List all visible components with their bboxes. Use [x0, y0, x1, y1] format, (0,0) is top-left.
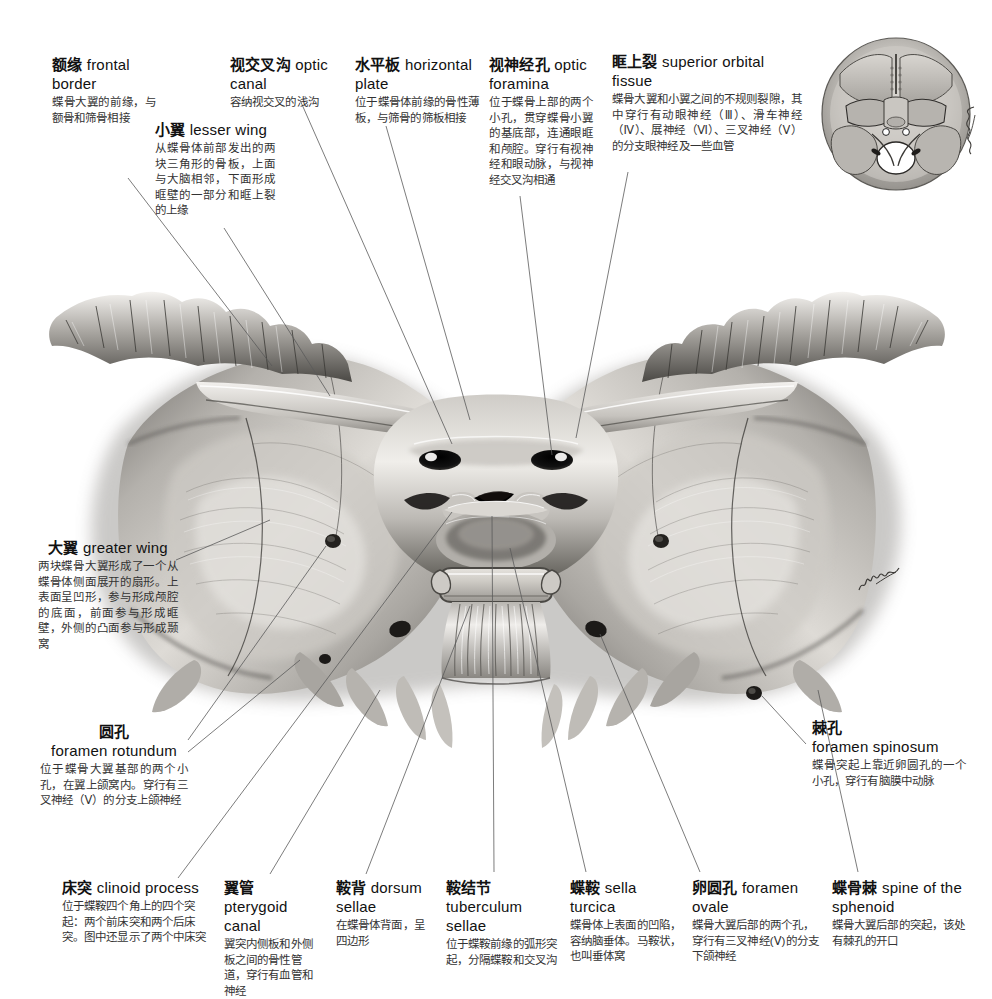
- label-optic-foramina-desc: 位于蝶骨上部的两个小孔，贯穿蝶骨小翼的基底部，连通眼眶和颅腔。穿行有视神经和眼动…: [489, 95, 593, 188]
- clivus-striated-surface: [441, 602, 550, 684]
- foramen-spinosum-left: [319, 654, 331, 664]
- label-foramen-spinosum-title: 棘孔 foramen spinosum: [812, 718, 966, 756]
- label-sella-turcica-desc: 蝶骨体上表面的凹陷，容纳脑垂体。马鞍状，也叫垂体窝: [570, 918, 682, 965]
- label-foramen-spinosum-desc: 蝶骨突起上靠近卵圆孔的一个小孔，穿行有脑膜中动脉: [812, 758, 966, 789]
- label-greater-wing-title: 大翼 greater wing: [38, 538, 178, 557]
- label-dorsum-sellae-title: 鞍背 dorsum sellae: [336, 878, 428, 916]
- label-foramen-rotundum: 圆孔 foramen rotundum 位于蝶骨大翼基部的两个小孔，在翼上颌窝内…: [40, 722, 188, 809]
- label-greater-wing-desc: 两块蝶骨大翼形成了一个从蝶骨体侧面展开的扇形。上表面呈凹形，参与形成颅腔的底面，…: [38, 559, 178, 652]
- optic-foramen-right: [531, 450, 573, 470]
- superior-orbital-fissure-right: [532, 428, 596, 482]
- label-pterygoid-canal-desc: 翼突内侧板和外侧板之间的骨性管道，穿行有血管和神经: [224, 937, 318, 999]
- label-pterygoid-canal: 翼管 pterygoid canal 翼突内侧板和外侧板之间的骨性管道，穿行有血…: [224, 878, 318, 999]
- label-clinoid-process: 床突 clinoid process 位于蝶鞍四个角上的四个突起：两个前床突和两…: [62, 878, 214, 946]
- greater-wing-right: [520, 355, 876, 694]
- label-sella-turcica-title: 蝶鞍 sella turcica: [570, 878, 682, 916]
- leader-optic-canal: [300, 100, 452, 444]
- leader-tuberculum-sellae: [492, 516, 494, 872]
- label-lesser-wing: 小翼 lesser wing 从蝶骨体前部发出的两块三角形的骨板，上面与大脑相邻…: [155, 120, 275, 219]
- tuberculum-sellae: [444, 501, 548, 516]
- leader-horizontal-plate: [386, 126, 470, 420]
- sphenoid-body: [374, 395, 618, 587]
- foramen-rotundum-right: [653, 534, 669, 548]
- label-optic-canal-title: 视交叉沟 optic canal: [230, 55, 346, 93]
- leader-clinoid-process: [178, 512, 452, 878]
- label-foramen-ovale-title: 卵圆孔 foramen ovale: [692, 878, 824, 916]
- artist-signature-main: [856, 560, 902, 606]
- foramen-ovale-left: [387, 618, 413, 640]
- optic-foramen-left: [419, 450, 461, 470]
- pterygoid-process-right: [542, 652, 700, 748]
- label-superior-orbital-fissure-title: 眶上裂 superior orbital fissue: [612, 52, 802, 90]
- label-horizontal-plate: 水平板 horizontal plate 位于蝶骨体前缘的骨性薄板，与筛骨的筛板…: [355, 55, 479, 126]
- label-foramen-ovale: 卵圆孔 foramen ovale 蝶骨大翼后部的两个孔，穿行有三叉神经(Ⅴ)的…: [692, 878, 824, 965]
- label-dorsum-sellae-desc: 在蝶骨体背面，呈四边形: [336, 918, 428, 949]
- lesser-wing-left: [196, 382, 472, 439]
- label-spine-of-the-sphenoid-title: 蝶骨棘 spine of the sphenoid: [832, 878, 968, 916]
- foramen-ovale-right: [583, 618, 609, 640]
- leader-optic-foramina: [520, 196, 552, 455]
- label-tuberculum-sellae: 鞍结节 tuberculum sellae 位于蝶鞍前缘的弧形突起，分隔蝶鞍和交…: [446, 878, 564, 968]
- label-clinoid-process-title: 床突 clinoid process: [62, 878, 214, 897]
- label-clinoid-process-desc: 位于蝶鞍四个角上的四个突起：两个前床突和两个后床突。图中还显示了两个中床突: [62, 899, 214, 946]
- leader-foramen-ovale: [600, 634, 700, 872]
- leader-foramen-rotundum-b: [188, 660, 300, 752]
- spine-of-the-sphenoid-left: [152, 660, 201, 712]
- leader-lesser-wing: [224, 228, 330, 396]
- foramen-rotundum-left: [325, 534, 341, 548]
- label-horizontal-plate-desc: 位于蝶骨体前缘的骨性薄板，与筛骨的筛板相接: [355, 95, 479, 126]
- label-superior-orbital-fissure-desc: 蝶骨大翼和小翼之间的不规则裂隙，其中穿行有动眼神经（Ⅲ）、滑车神经（Ⅳ）、展神经…: [612, 92, 802, 154]
- leader-foramen-spinosum: [762, 696, 806, 744]
- dorsum-sellae: [431, 568, 560, 602]
- bone-shadow-mass: [91, 354, 901, 701]
- label-frontal-border-title: 额缘 frontal border: [52, 55, 156, 93]
- frontal-border-rough-edge-right: [642, 292, 945, 382]
- label-sella-turcica: 蝶鞍 sella turcica 蝶骨体上表面的凹陷，容纳脑垂体。马鞍状，也叫垂…: [570, 878, 682, 965]
- label-spine-of-the-sphenoid-desc: 蝶骨大翼后部的突起，该处有棘孔的开口: [832, 918, 968, 949]
- superior-orbital-fissure-left: [398, 428, 462, 482]
- label-optic-foramina: 视神经孔 optic foramina 位于蝶骨上部的两个小孔，贯穿蝶骨小翼的基…: [489, 55, 593, 188]
- label-lesser-wing-desc: 从蝶骨体前部发出的两块三角形的骨板，上面与大脑相邻，下面形成眶壁的一部分和眶上裂…: [155, 141, 275, 219]
- cranial-base-inset: [806, 34, 986, 194]
- leader-superior-orbital-fissure: [576, 172, 628, 438]
- pterygoid-process-left: [294, 652, 452, 748]
- frontal-border-rough-edge-left: [49, 292, 352, 382]
- label-tuberculum-sellae-desc: 位于蝶鞍前缘的弧形突起，分隔蝶鞍和交叉沟: [446, 937, 564, 968]
- leader-greater-wing: [176, 520, 270, 560]
- label-tuberculum-sellae-title: 鞍结节 tuberculum sellae: [446, 878, 564, 935]
- spine-of-the-sphenoid-right: [793, 660, 842, 712]
- label-optic-foramina-title: 视神经孔 optic foramina: [489, 55, 593, 93]
- anterior-clinoid-process-right: [513, 492, 550, 522]
- label-pterygoid-canal-title: 翼管 pterygoid canal: [224, 878, 318, 935]
- leader-pterygoid-canal: [270, 690, 380, 874]
- label-foramen-ovale-desc: 蝶骨大翼后部的两个孔，穿行有三叉神经(Ⅴ)的分支下颌神经: [692, 918, 824, 965]
- foramen-spinosum-right: [746, 686, 762, 700]
- label-frontal-border: 额缘 frontal border 蝶骨大翼的前缘，与额骨和筛骨相接: [52, 55, 156, 126]
- artist-signature-inset: [962, 105, 980, 157]
- label-greater-wing: 大翼 greater wing 两块蝶骨大翼形成了一个从蝶骨体侧面展开的扇形。上…: [38, 538, 178, 652]
- label-horizontal-plate-title: 水平板 horizontal plate: [355, 55, 479, 93]
- leader-foramen-rotundum-a: [188, 546, 326, 740]
- label-foramen-rotundum-desc: 位于蝶骨大翼基部的两个小孔，在翼上颌窝内。穿行有三叉神经（Ⅴ）的分支上颌神经: [40, 762, 188, 809]
- label-dorsum-sellae: 鞍背 dorsum sellae 在蝶骨体背面，呈四边形: [336, 878, 428, 949]
- lesser-wing-right: [522, 382, 798, 439]
- label-foramen-spinosum: 棘孔 foramen spinosum 蝶骨突起上靠近卵圆孔的一个小孔，穿行有脑…: [812, 718, 966, 789]
- label-foramen-rotundum-title: 圆孔 foramen rotundum: [40, 722, 188, 760]
- label-superior-orbital-fissure: 眶上裂 superior orbital fissue 蝶骨大翼和小翼之间的不规…: [612, 52, 802, 154]
- label-lesser-wing-title: 小翼 lesser wing: [155, 120, 275, 139]
- label-spine-of-the-sphenoid: 蝶骨棘 spine of the sphenoid 蝶骨大翼后部的突起，该处有棘…: [832, 878, 968, 949]
- leader-sella-turcica: [510, 548, 586, 872]
- sella-turcica: [436, 510, 556, 570]
- label-frontal-border-desc: 蝶骨大翼的前缘，与额骨和筛骨相接: [52, 95, 156, 126]
- label-optic-canal-desc: 容纳视交叉的浅沟: [230, 95, 346, 111]
- label-optic-canal: 视交叉沟 optic canal 容纳视交叉的浅沟: [230, 55, 346, 111]
- leader-dorsum-sellae: [366, 606, 470, 874]
- anterior-clinoid-process-left: [442, 492, 479, 522]
